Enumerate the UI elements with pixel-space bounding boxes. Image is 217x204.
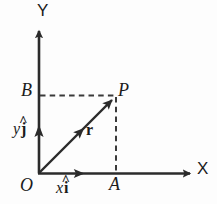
hat-accent-i: ^ (62, 173, 71, 188)
vector-label-x-component: x^i (56, 180, 69, 196)
vector-r-line (40, 100, 113, 173)
point-label-p: P (118, 81, 129, 99)
vector-label-y-component: y^j (13, 121, 26, 137)
vector-diagram-figure: Y X O A B P r y^j x^i (0, 0, 217, 204)
j-hat-unit-vector: ^j (20, 121, 26, 137)
i-hat-unit-vector: ^i (63, 180, 68, 196)
point-label-a: A (109, 175, 120, 193)
x-axis-label: X (197, 160, 208, 177)
y-axis-label: Y (37, 2, 48, 19)
vector-label-r: r (86, 122, 93, 138)
hat-accent-j: ^ (19, 114, 28, 129)
point-label-b: B (21, 81, 32, 99)
point-label-origin: O (20, 176, 33, 194)
